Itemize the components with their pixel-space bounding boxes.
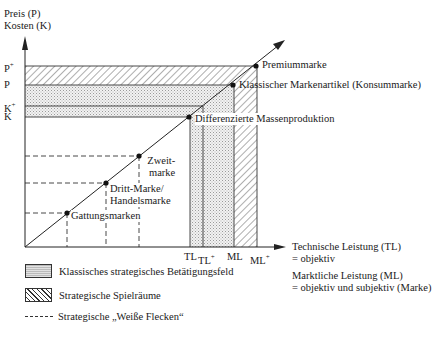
- label-zweitmarke: Zweit- marke: [143, 155, 175, 179]
- y-axis-arrow-icon: [22, 36, 28, 50]
- y-tick-p: P: [4, 79, 10, 91]
- x-tick-ml: ML: [227, 251, 243, 263]
- label-premiummarke: Premiummarke: [262, 59, 327, 71]
- x-axis-arrow-icon: [274, 244, 286, 250]
- y-tick-p-plus: P+: [4, 59, 14, 75]
- label-gattungsmarken: Gattungsmarken: [71, 210, 140, 222]
- dashed-line-icon: [25, 316, 53, 317]
- dotted-swatch-icon: [25, 264, 52, 278]
- legend-label: Strategische „Weiße Flecken“: [58, 311, 184, 322]
- hatched-swatch-icon: [25, 288, 52, 302]
- x-tick-tl: TL: [184, 251, 197, 263]
- legend-item-white-spots: Strategische „Weiße Flecken“: [25, 311, 184, 322]
- y-tick-k: K: [4, 111, 12, 123]
- x-axis-label-market: Marktliche Leistung (ML) = objektiv und …: [292, 270, 431, 294]
- label-drittmarke: Dritt-Marke/ Handelsmarke: [110, 183, 171, 207]
- label-klassischer-markenartikel: Klassischer Markenartikel (Konsummarke): [239, 79, 421, 91]
- legend-item-classic-field: Klassisches strategisches Betätigungsfel…: [25, 264, 233, 278]
- label-differenzierte-massenproduktion: Differenzierte Massenproduktion: [195, 113, 336, 125]
- y-axis-label: Preis (P) Kosten (K): [4, 8, 51, 32]
- legend-item-strategic-scope: Strategische Spielräume: [25, 288, 161, 302]
- legend-label: Strategische Spielräume: [59, 290, 161, 301]
- legend-label: Klassisches strategisches Betätigungsfel…: [59, 266, 233, 277]
- x-tick-ml-plus: ML+: [250, 251, 270, 267]
- x-axis-label-technical: Technische Leistung (TL) = objektiv: [292, 241, 401, 265]
